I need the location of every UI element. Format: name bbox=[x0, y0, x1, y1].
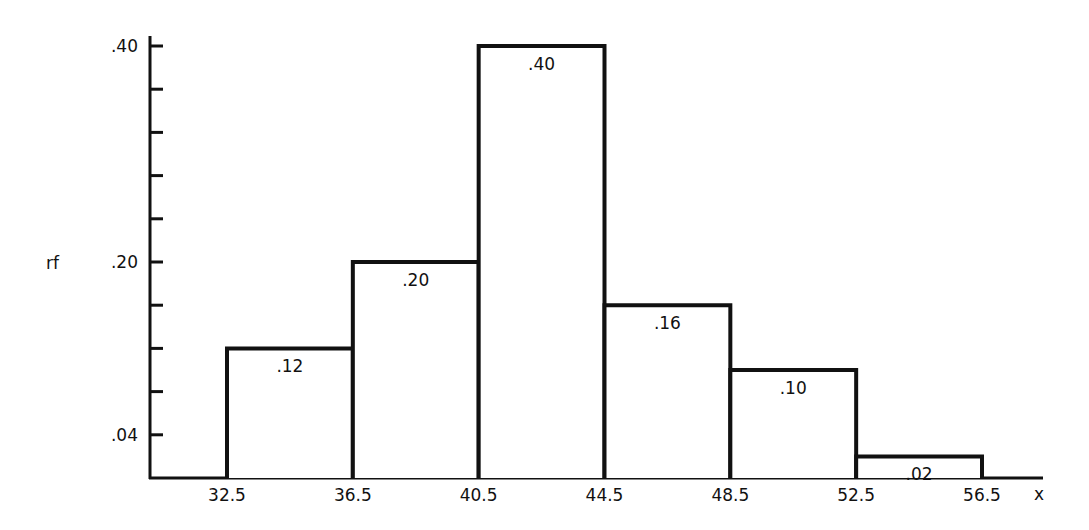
y-axis-label: rf bbox=[46, 253, 60, 273]
bar-value-label: .40 bbox=[528, 54, 555, 74]
x-tick-label: 44.5 bbox=[586, 485, 624, 505]
x-tick-label: 52.5 bbox=[837, 485, 875, 505]
y-tick-label: .20 bbox=[111, 252, 138, 272]
x-tick-label: 36.5 bbox=[334, 485, 372, 505]
histogram-bars bbox=[227, 46, 982, 478]
x-tick-label: 32.5 bbox=[208, 485, 246, 505]
x-tick-label: 40.5 bbox=[460, 485, 498, 505]
x-tick-labels: 32.536.540.544.548.552.556.5 bbox=[208, 485, 1001, 505]
y-tick-labels: .04.20.40 bbox=[111, 36, 138, 445]
x-tick-label: 56.5 bbox=[963, 485, 1001, 505]
bar-value-label: .16 bbox=[654, 313, 681, 333]
histogram-bar bbox=[479, 46, 605, 478]
x-axis-label: x bbox=[1034, 484, 1044, 504]
bar-value-label: .02 bbox=[906, 464, 933, 484]
bar-value-label: .10 bbox=[780, 378, 807, 398]
histogram-bar bbox=[353, 262, 479, 478]
y-axis-ticks bbox=[150, 46, 163, 435]
histogram-chart: .12.20.40.16.10.02 32.536.540.544.548.55… bbox=[0, 0, 1089, 530]
x-tick-label: 48.5 bbox=[711, 485, 749, 505]
y-tick-label: .04 bbox=[111, 425, 138, 445]
bar-value-label: .12 bbox=[276, 356, 303, 376]
bar-value-label: .20 bbox=[402, 270, 429, 290]
y-tick-label: .40 bbox=[111, 36, 138, 56]
